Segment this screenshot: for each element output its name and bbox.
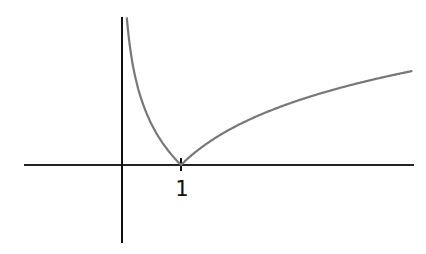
- curve-abs-ln: [127, 17, 413, 165]
- x-tick-label-1: 1: [175, 178, 188, 200]
- plot-area: [0, 0, 426, 254]
